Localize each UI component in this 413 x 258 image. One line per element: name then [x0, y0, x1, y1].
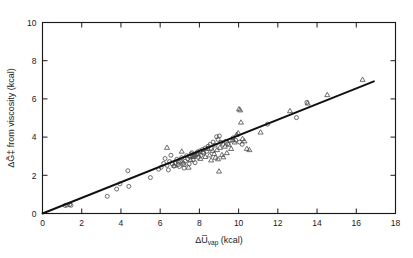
y-tick-label: 0: [32, 209, 37, 219]
x-tick-label: 6: [158, 218, 163, 228]
y-tick-label: 2: [32, 171, 37, 181]
x-tick-label: 18: [391, 218, 401, 228]
y-tick-label: 4: [32, 132, 37, 142]
x-tick-label: 12: [273, 218, 283, 228]
figure-container: 024681012141618 0246810 ΔU̅vap (kcal)ΔG̃…: [0, 0, 413, 258]
y-tick-label: 10: [27, 18, 37, 28]
x-tick-label: 8: [197, 218, 202, 228]
y-axis-title: ΔG̃‡ from viscosity (kcal): [6, 68, 16, 168]
y-tick-label: 6: [32, 94, 37, 104]
x-tick-label: 16: [352, 218, 362, 228]
scatter-plot: 024681012141618 0246810 ΔU̅vap (kcal)ΔG̃…: [0, 0, 413, 258]
x-tick-label: 4: [119, 218, 124, 228]
x-tick-label: 2: [79, 218, 84, 228]
x-tick-label: 10: [234, 218, 244, 228]
x-tick-label: 0: [40, 218, 45, 228]
y-tick-label: 8: [32, 56, 37, 66]
x-tick-label: 14: [312, 218, 322, 228]
